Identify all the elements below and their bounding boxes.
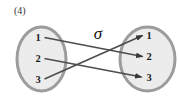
left-node-3: 3 (35, 74, 40, 85)
left-set-elements: 1 2 3 (35, 32, 40, 85)
left-node-1: 1 (35, 32, 40, 43)
permutation-figure: (4) σ 1 2 3 1 2 3 (0, 0, 178, 96)
right-node-1: 1 (146, 30, 151, 41)
right-set-elements: 1 2 3 (146, 30, 151, 83)
right-node-3: 3 (146, 72, 151, 83)
mapping-diagram: (4) σ 1 2 3 1 2 3 (0, 0, 178, 96)
right-node-2: 2 (146, 51, 151, 62)
left-set-ellipse (17, 27, 66, 91)
left-node-2: 2 (35, 53, 40, 64)
sigma-map-label: σ (94, 24, 103, 43)
figure-label: (4) (14, 5, 26, 17)
